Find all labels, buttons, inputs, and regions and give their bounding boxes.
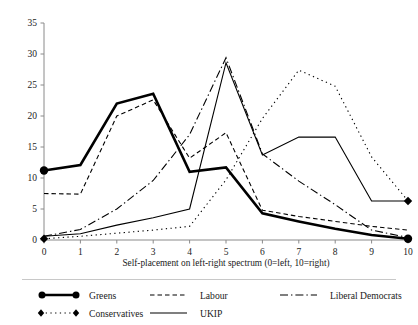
series-conservatives — [40, 70, 412, 243]
plot-area: 05101520253035 012345678910 Self-placeme… — [0, 0, 418, 272]
series-endpoint-marker — [404, 235, 412, 243]
x-tick-label: 6 — [260, 247, 265, 257]
x-tick-label: 5 — [224, 247, 229, 257]
legend-label-greens: Greens — [89, 290, 116, 301]
series-line — [44, 100, 408, 230]
legend-label-labour: Labour — [200, 290, 228, 301]
series-line — [44, 58, 408, 238]
legend-swatch-labour — [147, 288, 193, 302]
series-greens — [40, 94, 412, 243]
x-tick-label: 8 — [333, 247, 338, 257]
legend-item-liberal-democrats: Liberal Democrats — [261, 285, 418, 305]
x-tick-label: 0 — [42, 247, 47, 257]
y-tick-label: 25 — [28, 80, 38, 90]
y-tick-label: 20 — [28, 111, 38, 121]
series-ukip — [44, 63, 408, 237]
series-line — [44, 70, 408, 239]
y-tick-label: 30 — [28, 49, 38, 59]
series-liberal-democrats — [44, 58, 408, 238]
y-tick-label: 15 — [28, 142, 38, 152]
legend-swatch-liberal-democrats — [277, 288, 323, 302]
x-tick-label: 7 — [296, 247, 301, 257]
figure-container: 05101520253035 012345678910 Self-placeme… — [0, 0, 418, 325]
data-series-group — [40, 58, 412, 243]
x-tick-label: 10 — [403, 247, 413, 257]
x-tick-label: 3 — [151, 247, 156, 257]
x-axis-title: Self-placement on left-right spectrum (0… — [122, 258, 329, 269]
y-tick-label: 35 — [28, 18, 38, 28]
legend-swatch-greens — [36, 288, 82, 302]
legend-item-greens: Greens — [0, 285, 133, 305]
legend-label-liberal-democrats: Liberal Democrats — [330, 290, 402, 301]
legend-item-labour: Labour — [133, 285, 261, 305]
x-tick-label: 1 — [78, 247, 83, 257]
x-axis-ticks: 012345678910 — [42, 240, 413, 257]
legend-row-top: Greens Labour Liberal Democrats — [0, 285, 418, 305]
x-axis: 012345678910 — [42, 240, 413, 257]
y-tick-label: 0 — [32, 235, 37, 245]
series-endpoint-marker — [40, 166, 48, 174]
series-line — [44, 63, 408, 237]
y-axis-ticks: 05101520253035 — [28, 18, 45, 245]
y-axis: 05101520253035 — [28, 18, 45, 245]
caption-strip — [0, 316, 418, 325]
series-labour — [44, 100, 408, 230]
x-tick-label: 4 — [187, 247, 192, 257]
x-tick-label: 9 — [369, 247, 374, 257]
legend-divider — [22, 279, 396, 280]
x-tick-label: 2 — [114, 247, 119, 257]
y-tick-label: 10 — [28, 173, 38, 183]
y-tick-label: 5 — [32, 204, 37, 214]
line-chart: 05101520253035 012345678910 Self-placeme… — [0, 0, 418, 272]
